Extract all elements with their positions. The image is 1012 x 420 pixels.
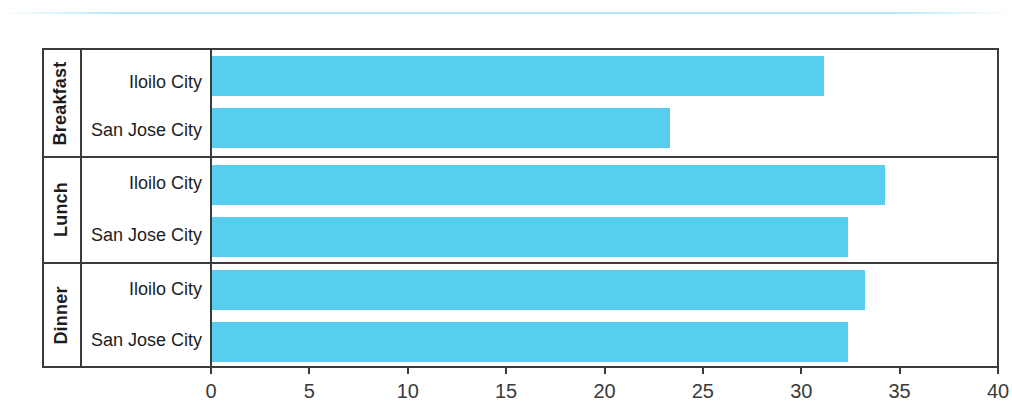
x-axis-tick-label-5: 5: [279, 380, 339, 403]
x-axis-tick-25: [702, 366, 704, 374]
series-label-breakfast-iloilo: Iloilo City: [82, 72, 202, 93]
x-axis-tick-label-25: 25: [673, 380, 733, 403]
series-label-dinner-sanjose: San Jose City: [82, 330, 202, 351]
x-axis-tick-label-10: 10: [378, 380, 438, 403]
series-label-dinner-iloilo: Iloilo City: [82, 279, 202, 300]
x-axis-tick-30: [800, 366, 802, 374]
series-label-breakfast-sanjose: San Jose City: [82, 120, 202, 141]
group-label-breakfast: Breakfast: [42, 50, 80, 156]
chart-frame-right: [997, 48, 999, 368]
x-axis-tick-20: [604, 366, 606, 374]
x-axis-tick-label-0: 0: [181, 380, 241, 403]
bar-dinner-iloilo: [212, 270, 865, 310]
horizontal-bar-chart: Breakfast Lunch Dinner Iloilo City San J…: [0, 0, 1012, 420]
x-axis-tick-label-20: 20: [575, 380, 635, 403]
group-label-divider: [80, 48, 82, 368]
bar-dinner-sanjose: [212, 322, 848, 362]
group-label-dinner: Dinner: [42, 263, 80, 367]
group-label-breakfast-text: Breakfast: [51, 61, 72, 145]
x-axis-tick-label-30: 30: [771, 380, 831, 403]
bar-lunch-sanjose: [212, 217, 848, 257]
bar-breakfast-iloilo: [212, 56, 824, 96]
x-axis-line: [42, 366, 999, 368]
x-axis-tick-5: [308, 366, 310, 374]
x-axis-tick-15: [505, 366, 507, 374]
series-label-lunch-sanjose: San Jose City: [82, 225, 202, 246]
group-separator-lunch-dinner: [42, 262, 999, 264]
x-axis-tick-label-15: 15: [476, 380, 536, 403]
x-axis-tick-40: [997, 366, 999, 374]
plot-area-left-axis: [210, 48, 212, 368]
bar-lunch-iloilo: [212, 165, 885, 205]
x-axis-tick-10: [407, 366, 409, 374]
group-label-lunch-text: Lunch: [51, 182, 72, 237]
group-label-lunch: Lunch: [42, 157, 80, 262]
x-axis-tick-0: [210, 366, 212, 374]
bar-breakfast-sanjose: [212, 108, 670, 148]
x-axis-tick-35: [899, 366, 901, 374]
x-axis-tick-label-40: 40: [968, 380, 1012, 403]
group-separator-breakfast-lunch: [42, 156, 999, 158]
chart-frame-top: [42, 48, 999, 50]
x-axis-tick-label-35: 35: [870, 380, 930, 403]
series-label-lunch-iloilo: Iloilo City: [82, 173, 202, 194]
group-label-dinner-text: Dinner: [51, 286, 72, 344]
